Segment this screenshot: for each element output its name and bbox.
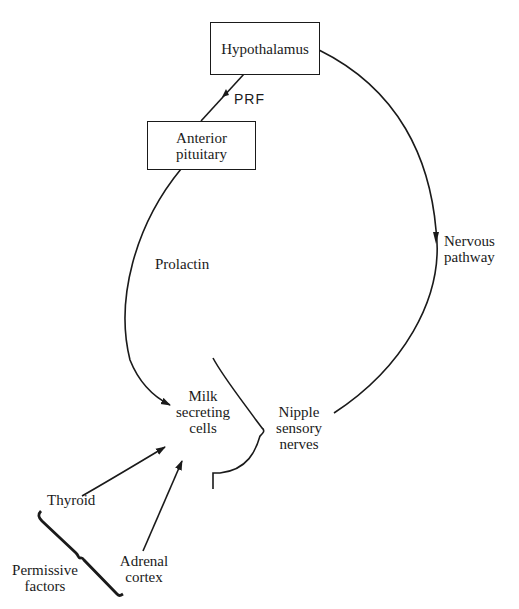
nervous-pathway-arrowhead xyxy=(433,232,439,244)
nervous-pathway-curve xyxy=(319,50,437,413)
hypothalamus-box: Hypothalamus xyxy=(210,22,320,75)
thyroid-arrow xyxy=(82,447,165,496)
adrenal-label-1: Adrenal xyxy=(114,553,174,569)
prolactin-curve xyxy=(125,169,181,405)
thyroid-label: Thyroid xyxy=(47,492,95,508)
milk-cells-label-3: cells xyxy=(173,420,233,436)
nipple-label-2: sensory xyxy=(264,420,334,436)
anterior-pituitary-label-1: Anterior xyxy=(176,130,227,146)
nervous-pathway-label-1: Nervous xyxy=(444,233,495,249)
permissive-label-1: Permissive xyxy=(6,562,84,578)
milk-secreting-cells-label: Milk secreting cells xyxy=(173,388,233,436)
adrenal-cortex-label: Adrenal cortex xyxy=(114,553,174,585)
nipple-label-3: nerves xyxy=(264,436,334,452)
nipple-label-1: Nipple xyxy=(264,404,334,420)
prolactin-label: Prolactin xyxy=(155,256,209,272)
adrenal-label-2: cortex xyxy=(114,569,174,585)
nervous-pathway-label: Nervous pathway xyxy=(444,233,495,265)
prf-label: PRF xyxy=(234,91,265,107)
milk-cells-label-1: Milk xyxy=(173,388,233,404)
adrenal-arrow xyxy=(143,461,182,551)
milk-cells-label-2: secreting xyxy=(173,404,233,420)
anterior-pituitary-label-2: pituitary xyxy=(176,146,227,162)
anterior-pituitary-box: Anterior pituitary xyxy=(147,121,256,170)
permissive-label-2: factors xyxy=(6,578,84,594)
prf-arrowhead xyxy=(222,89,229,97)
nipple-sensory-nerves-label: Nipple sensory nerves xyxy=(264,404,334,452)
hypothalamus-label: Hypothalamus xyxy=(221,41,309,57)
permissive-factors-label: Permissive factors xyxy=(6,562,84,594)
nervous-pathway-label-2: pathway xyxy=(444,249,495,265)
